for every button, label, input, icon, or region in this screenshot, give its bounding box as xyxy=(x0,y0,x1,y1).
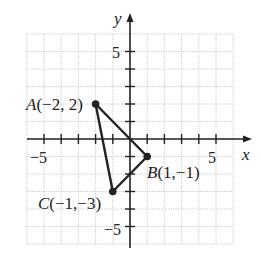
x-axis-arrow-icon xyxy=(243,136,252,143)
point-b-dot xyxy=(143,153,151,161)
y-axis-arrow-icon xyxy=(127,13,134,22)
vertex-points xyxy=(92,100,151,195)
y-tick-label-5: 5 xyxy=(112,44,120,61)
y-tick-label-neg5: −5 xyxy=(104,221,121,238)
point-c-dot xyxy=(109,188,117,196)
point-a-label: A(−2, 2) xyxy=(25,95,83,114)
triangle-abc xyxy=(96,104,148,192)
coordinate-plane: x y −5 5 5 −5 A(−2, 2) B(1,−1) C(−1,−3) xyxy=(0,0,261,253)
x-axis-label: x xyxy=(241,145,250,164)
point-b-label: B(1,−1) xyxy=(147,163,200,182)
y-axis-label: y xyxy=(112,9,122,28)
x-tick-label-5: 5 xyxy=(208,149,216,166)
point-c-label: C(−1,−3) xyxy=(38,194,101,213)
point-a-dot xyxy=(92,100,100,108)
x-tick-label-neg5: −5 xyxy=(30,149,47,166)
